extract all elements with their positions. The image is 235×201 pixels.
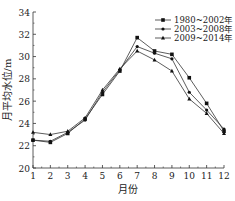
legend: 1980~2002年2003~2008年2009~2014年 xyxy=(155,15,233,43)
x-tick-label: 8 xyxy=(152,171,158,181)
x-axis-label: 月份 xyxy=(118,184,138,195)
x-tick-label: 2 xyxy=(47,171,53,181)
legend-label: 2009~2014年 xyxy=(174,33,233,43)
legend-item: 2009~2014年 xyxy=(155,33,233,43)
x-tick-label: 11 xyxy=(201,171,212,181)
x-tick-label: 3 xyxy=(65,171,71,181)
x-tick-label: 4 xyxy=(82,171,88,181)
y-tick-label: 28 xyxy=(19,74,31,84)
y-tick-label: 26 xyxy=(19,97,31,107)
y-tick-label: 34 xyxy=(19,8,31,18)
series-1 xyxy=(31,36,226,144)
x-tick-label: 7 xyxy=(134,171,140,181)
y-tick-label: 32 xyxy=(19,30,30,40)
x-tick-label: 1 xyxy=(30,171,36,181)
series-lines xyxy=(31,36,226,144)
x-tick-label: 10 xyxy=(184,171,196,181)
y-tick-label: 24 xyxy=(19,119,31,129)
y-tick-label: 20 xyxy=(19,164,31,174)
x-tick-label: 9 xyxy=(169,171,175,181)
y-tick-label: 30 xyxy=(19,52,31,62)
x-tick-label: 6 xyxy=(117,171,123,181)
y-tick-label: 22 xyxy=(19,141,30,151)
x-tick-label: 5 xyxy=(100,171,106,181)
line-chart: 2022242628303234123456789101112 1980~200… xyxy=(0,0,235,201)
x-tick-label: 12 xyxy=(218,171,229,181)
series-3 xyxy=(31,49,226,136)
y-axis-label: 月平均水位/m xyxy=(1,58,13,121)
